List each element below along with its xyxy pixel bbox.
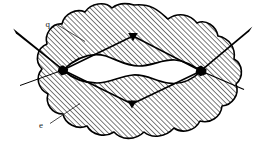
bottom-label-e: e — [39, 120, 43, 130]
top-label-q: q — [46, 19, 51, 29]
figure-container: q e — [0, 0, 269, 145]
diagram-canvas: q e — [0, 0, 269, 145]
